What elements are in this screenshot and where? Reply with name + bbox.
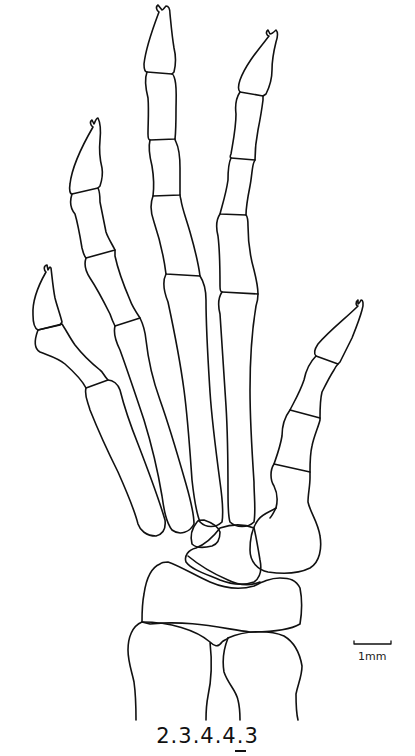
digit-4 <box>217 30 278 527</box>
digit-5-phalanx-2 <box>274 410 320 472</box>
digit-1 <box>33 265 165 536</box>
phalangeal-formula-caption: 2.3.4.4.3 <box>0 724 415 748</box>
digit-2-phalanx-1 <box>71 188 115 258</box>
digit-5 <box>250 300 363 573</box>
hand-skeleton-drawing <box>0 0 415 756</box>
forearm-bones <box>128 562 302 720</box>
digit-1-phalanx-1 <box>35 324 108 388</box>
digit-5-claw <box>315 300 363 364</box>
ulna <box>223 632 302 720</box>
caption-underline-mark <box>235 750 246 752</box>
digit-3-phalanx-2 <box>149 139 180 196</box>
digit-4-phalanx-3 <box>217 214 258 294</box>
scale-bar-line <box>354 641 391 644</box>
digit-4-phalanx-1 <box>230 92 263 160</box>
scale-bar-label: 1mm <box>358 650 386 663</box>
radius-right-edge <box>142 622 228 720</box>
digit-3-claw <box>144 5 176 74</box>
digit-5-metacarpal <box>250 464 321 573</box>
digit-3-phalanx-1 <box>145 72 176 140</box>
digit-1-metacarpal <box>85 380 165 536</box>
digit-3-metacarpal <box>164 274 223 527</box>
digit-2 <box>70 118 194 533</box>
digit-2-claw <box>70 118 103 194</box>
digit-2-phalanx-2 <box>85 250 140 326</box>
digit-2-metacarpal <box>114 318 194 533</box>
radius <box>128 622 142 720</box>
digit-3-phalanx-3 <box>151 195 200 276</box>
digit-4-phalanx-2 <box>220 158 255 215</box>
digit-4-claw <box>239 30 278 96</box>
digit-4-metacarpal <box>219 292 258 527</box>
digit-1-claw <box>33 265 62 330</box>
digit-5-phalanx-1 <box>290 356 338 418</box>
scale-bar <box>354 641 391 644</box>
digit-3 <box>144 5 223 527</box>
